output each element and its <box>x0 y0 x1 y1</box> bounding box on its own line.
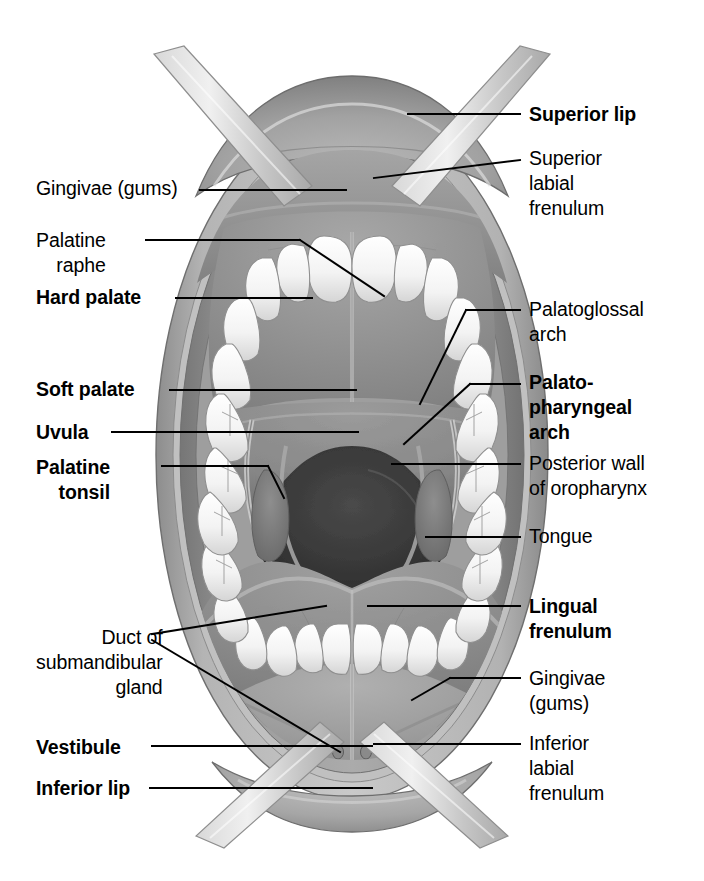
label-gingivae-superior: Gingivae (gums) <box>36 176 178 201</box>
label-palatoglossal-arch: Palatoglossal arch <box>529 297 644 347</box>
label-inferior-lip: Inferior lip <box>36 776 130 801</box>
label-superior-lip: Superior lip <box>529 102 636 127</box>
label-soft-palate: Soft palate <box>36 377 135 402</box>
label-superior-labial-frenulum: Superior labial frenulum <box>529 146 604 221</box>
label-posterior-wall-of-oropharynx: Posterior wall of oropharynx <box>529 451 647 501</box>
label-hard-palate: Hard palate <box>36 285 141 310</box>
label-palatine-tonsil: Palatine tonsil <box>36 455 110 505</box>
label-vestibule: Vestibule <box>36 735 121 760</box>
label-inferior-labial-frenulum: Inferior labial frenulum <box>529 731 604 806</box>
label-gingivae-inferior: Gingivae (gums) <box>529 666 605 716</box>
label-palatine-raphe: Palatine raphe <box>36 228 106 278</box>
label-duct-of-submandibular-gland: Duct of submandibular gland <box>36 625 163 700</box>
label-lingual-frenulum: Lingual frenulum <box>529 594 612 644</box>
oral-cavity-figure: Gingivae (gums) Palatine raphe Hard pala… <box>0 0 704 881</box>
label-tongue: Tongue <box>529 524 592 549</box>
label-palatopharyngeal-arch: Palato- pharyngeal arch <box>529 370 632 445</box>
label-uvula: Uvula <box>36 420 89 445</box>
